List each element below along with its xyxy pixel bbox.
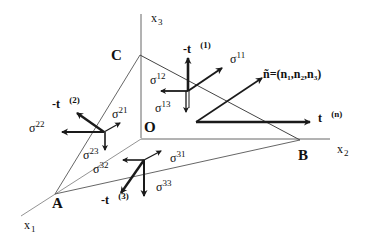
label-t1: -t⃗(1) bbox=[183, 40, 211, 56]
sigma11-arrow bbox=[188, 68, 222, 91]
label-x3: x3 bbox=[151, 11, 163, 27]
sigma21-arrow bbox=[104, 123, 120, 132]
label-normal: ñ=(n₁,n₂,n₃) bbox=[263, 67, 321, 81]
label-sigma32: σ32 bbox=[93, 160, 108, 176]
label-sigma12: σ12 bbox=[150, 71, 165, 87]
label-b: B bbox=[298, 147, 308, 163]
t3-arrow bbox=[121, 160, 144, 193]
label-sigma22: σ22 bbox=[29, 119, 44, 135]
label-sigma11: σ11 bbox=[230, 50, 245, 66]
label-a: A bbox=[52, 195, 63, 211]
label-sigma23: σ23 bbox=[83, 146, 99, 162]
face3-stresses bbox=[121, 151, 161, 196]
label-sigma13: σ13 bbox=[155, 99, 171, 115]
label-sigma33: σ33 bbox=[156, 178, 172, 194]
t2-arrow bbox=[77, 113, 104, 132]
sigma31-arrow bbox=[144, 151, 161, 160]
label-x2: x2 bbox=[337, 142, 349, 158]
label-t2: -t⃗(2) bbox=[52, 95, 80, 111]
normal-vector-arrow bbox=[196, 78, 262, 122]
axes bbox=[21, 14, 330, 216]
label-x1: x1 bbox=[24, 218, 36, 234]
label-t3: -t⃗(3) bbox=[101, 191, 129, 207]
label-o: O bbox=[144, 119, 156, 135]
label-c: C bbox=[111, 47, 122, 63]
label-sigma21: σ21 bbox=[112, 105, 127, 121]
label-tn: t⃗(n) bbox=[318, 109, 342, 125]
label-sigma31: σ31 bbox=[170, 149, 185, 165]
tetrahedron-diagram: C O B A x3 x2 x1 ñ=(n₁,n₂,n₃) t⃗(n) -t⃗… bbox=[0, 0, 379, 247]
x1-axis bbox=[21, 139, 141, 216]
